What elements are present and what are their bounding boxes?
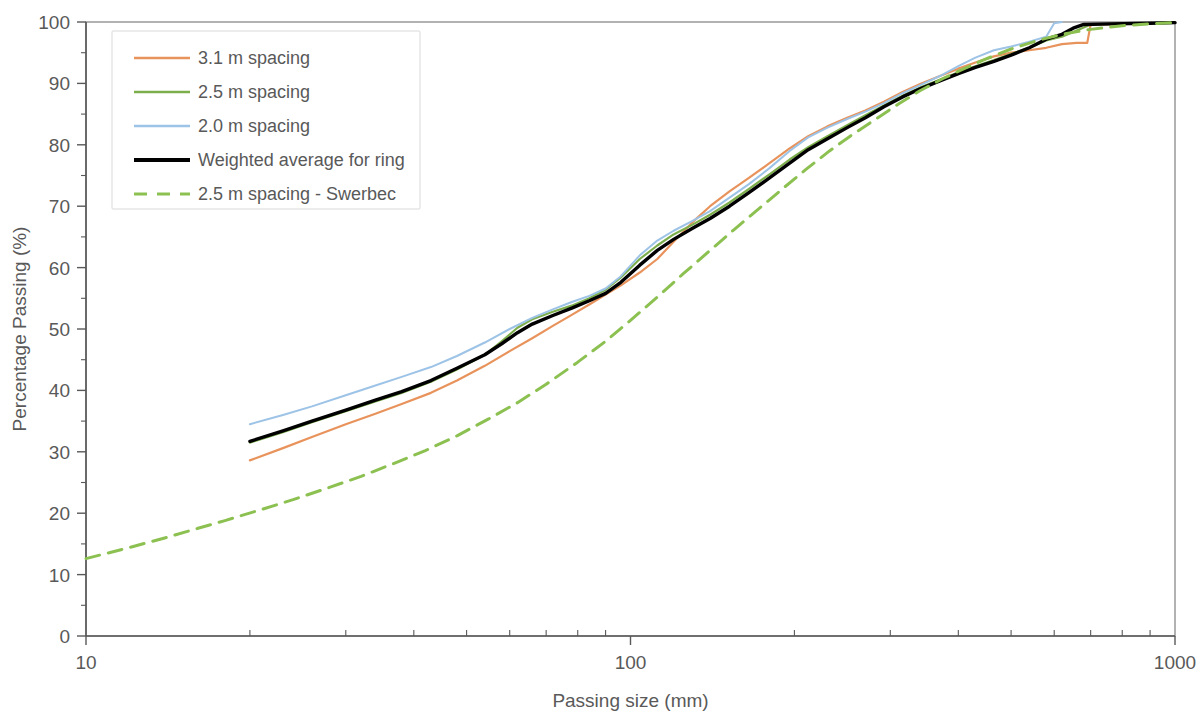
x-axis-ticks: 101001000 [75,630,1196,673]
y-axis-tick-label: 70 [49,196,70,217]
chart-root: 0102030405060708090100 101001000 3.1 m s… [0,0,1202,715]
y-axis-tick-label: 60 [49,258,70,279]
y-axis-tick-label: 90 [49,73,70,94]
x-axis-tick-label: 100 [615,652,647,673]
y-axis-tick-label: 80 [49,135,70,156]
legend: 3.1 m spacing2.5 m spacing2.0 m spacingW… [112,31,420,209]
y-axis-tick-label: 40 [49,380,70,401]
x-axis-title: Passing size (mm) [552,690,708,711]
y-axis-ticks: 0102030405060708090100 [38,12,86,647]
x-axis-tick-label: 1000 [1154,652,1196,673]
y-axis-tick-label: 100 [38,12,70,33]
y-axis-tick-label: 0 [59,626,70,647]
y-axis-title: Percentage Passing (%) [9,227,30,432]
legend-label-2: 2.0 m spacing [198,116,310,136]
legend-label-1: 2.5 m spacing [198,82,310,102]
grain-size-distribution-chart: 0102030405060708090100 101001000 3.1 m s… [0,0,1202,715]
legend-label-4: 2.5 m spacing - Swerbec [198,184,396,204]
y-axis-tick-label: 10 [49,565,70,586]
legend-label-0: 3.1 m spacing [198,48,310,68]
legend-label-3: Weighted average for ring [198,150,405,170]
x-axis-tick-label: 10 [75,652,96,673]
y-axis-tick-label: 30 [49,442,70,463]
y-axis-tick-label: 50 [49,319,70,340]
y-axis-tick-label: 20 [49,503,70,524]
